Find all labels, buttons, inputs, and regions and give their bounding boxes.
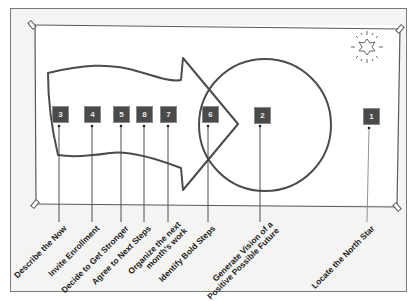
step-box-4: 4 <box>84 106 101 123</box>
step-box-3: 3 <box>52 106 69 123</box>
step-box-8: 8 <box>136 106 153 123</box>
step-box-2: 2 <box>254 107 271 124</box>
step-box-6: 6 <box>202 106 219 123</box>
step-box-7: 7 <box>160 106 177 123</box>
step-box-1: 1 <box>363 108 380 125</box>
step-box-5: 5 <box>113 106 130 123</box>
